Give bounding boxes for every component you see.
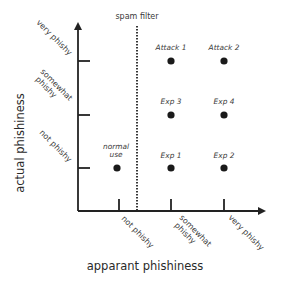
point-exp-2: Exp 2 [214, 151, 235, 172]
phishiness-diagram: spam filter very phishy somewhat phishy … [0, 0, 283, 283]
point-attack-1: Attack 1 [155, 43, 187, 65]
svg-text:Attack 2: Attack 2 [208, 43, 240, 52]
svg-text:Exp 1: Exp 1 [161, 151, 182, 160]
svg-text:Exp 4: Exp 4 [214, 97, 235, 106]
y-label-very-phishy: very phishy [35, 18, 74, 57]
point-exp-1: Exp 1 [161, 151, 182, 172]
point-dot [167, 164, 174, 171]
point-dot [220, 164, 227, 171]
y-axis-title: actual phishiness [13, 93, 27, 193]
point-dot [167, 111, 174, 118]
svg-text:Attack 1: Attack 1 [155, 43, 187, 52]
point-normal-use: normal use [103, 142, 130, 172]
point-dot [220, 111, 227, 118]
point-dot [113, 164, 120, 171]
svg-text:Exp 2: Exp 2 [214, 151, 235, 160]
point-dot [167, 57, 174, 64]
spam-filter-label: spam filter [115, 12, 159, 21]
svg-text:use: use [109, 150, 123, 159]
svg-text:Exp 3: Exp 3 [161, 97, 182, 106]
point-exp-4: Exp 4 [214, 97, 235, 119]
x-label-somewhat-phishy: somewhat phishy [171, 213, 213, 255]
x-label-very-phishy: very phishy [227, 213, 266, 252]
point-exp-3: Exp 3 [161, 97, 182, 119]
y-label-somewhat-phishy: somewhat phishy [32, 67, 74, 109]
point-dot [220, 57, 227, 64]
x-label-not-phishy: not phishy [120, 214, 156, 250]
y-label-not-phishy: not phishy [38, 128, 74, 164]
x-axis-title: apparant phishiness [87, 259, 204, 273]
point-attack-2: Attack 2 [208, 43, 240, 65]
